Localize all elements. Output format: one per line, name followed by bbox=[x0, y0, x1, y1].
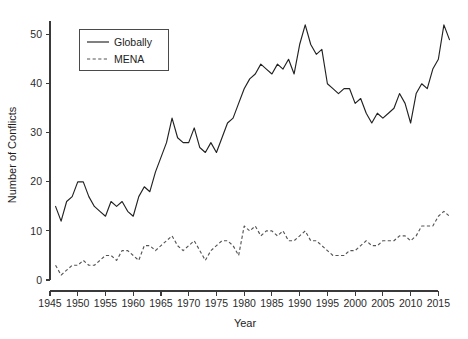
x-tick-label: 1980 bbox=[232, 297, 256, 309]
y-tick-label: 30 bbox=[30, 126, 42, 138]
x-tick-label: 1995 bbox=[316, 297, 340, 309]
x-tick-label: 1960 bbox=[122, 297, 146, 309]
chart-legend: GloballyMENA bbox=[79, 29, 168, 70]
y-tick-label: 10 bbox=[30, 225, 42, 237]
x-tick-label: 2005 bbox=[371, 297, 395, 309]
x-tick-label: 1975 bbox=[205, 297, 229, 309]
x-axis: 1945195019551960196519701975198019851990… bbox=[38, 291, 450, 309]
x-tick-label: 1950 bbox=[66, 297, 90, 309]
series-line-mena bbox=[56, 211, 450, 275]
x-tick-label: 1965 bbox=[149, 297, 173, 309]
x-tick-label: 1955 bbox=[94, 297, 118, 309]
x-tick-label: 1970 bbox=[177, 297, 201, 309]
x-tick-label: 2015 bbox=[427, 297, 451, 309]
x-axis-title: Year bbox=[234, 317, 257, 329]
x-tick-label: 2000 bbox=[343, 297, 367, 309]
y-tick-label: 0 bbox=[36, 274, 42, 286]
y-axis-title: Number of Conflicts bbox=[6, 106, 18, 203]
conflicts-line-chart: 01020304050 1945195019551960196519701975… bbox=[0, 0, 468, 339]
chart-canvas: 01020304050 1945195019551960196519701975… bbox=[0, 0, 468, 339]
x-tick-label: 2010 bbox=[399, 297, 423, 309]
x-tick-label: 1985 bbox=[260, 297, 284, 309]
y-tick-label: 20 bbox=[30, 175, 42, 187]
legend-label-mena: MENA bbox=[114, 53, 144, 65]
y-tick-label: 40 bbox=[30, 77, 42, 89]
x-tick-label: 1945 bbox=[38, 297, 62, 309]
y-axis: 01020304050 bbox=[30, 21, 50, 286]
y-tick-label: 50 bbox=[30, 28, 42, 40]
legend-label-globally: Globally bbox=[114, 36, 153, 48]
x-tick-label: 1990 bbox=[288, 297, 312, 309]
